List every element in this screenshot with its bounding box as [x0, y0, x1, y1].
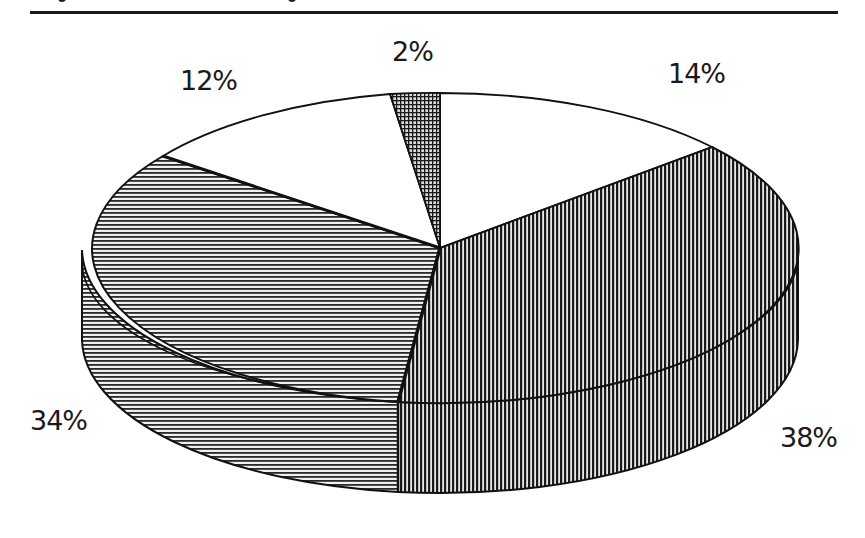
label-12-percent: 12% — [180, 65, 237, 96]
label-2-percent: 2% — [392, 36, 433, 67]
label-34-percent: 34% — [30, 405, 87, 436]
label-38-percent: 38% — [780, 422, 837, 453]
pie-chart — [0, 0, 865, 538]
label-14-percent: 14% — [668, 58, 725, 89]
